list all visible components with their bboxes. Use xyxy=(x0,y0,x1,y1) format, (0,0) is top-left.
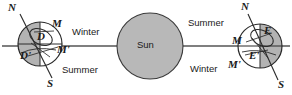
earth-right-group xyxy=(237,14,283,80)
earth-right-south-label: S xyxy=(278,79,284,90)
earth-left-season-upper: Winter xyxy=(72,27,99,37)
sun-label: Sun xyxy=(137,40,154,50)
earth-right-m-label: M xyxy=(232,35,242,46)
earth-right-m-prime-label: M' xyxy=(228,59,241,70)
earth-left-m-prime-label: M' xyxy=(57,44,70,55)
earth-right-e-prime-label: E' xyxy=(249,50,259,61)
earth-right-e-label: E xyxy=(264,25,271,36)
earth-right-season-upper: Summer xyxy=(188,18,224,28)
earth-left-d-label: D xyxy=(37,31,45,42)
earth-left-south-label: S xyxy=(47,78,53,89)
earth-left-d-prime-label: D' xyxy=(20,50,31,61)
earth-left-season-lower: Summer xyxy=(62,65,98,75)
earth-right-north-label: N xyxy=(241,1,249,12)
earth-left-m-label: M xyxy=(52,18,62,29)
earth-right-season-lower: Winter xyxy=(190,64,217,74)
diagram-canvas: Sun N S M M' D D' Winter Summer N S M M'… xyxy=(0,0,292,95)
earth-left-north-label: N xyxy=(8,2,16,13)
